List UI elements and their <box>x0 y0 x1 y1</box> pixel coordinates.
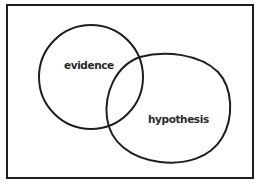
hypothesis-ellipse <box>107 54 231 163</box>
evidence-circle <box>39 25 143 129</box>
venn-diagram <box>0 0 258 185</box>
hypothesis-label: hypothesis <box>148 113 209 125</box>
evidence-label: evidence <box>64 59 114 71</box>
